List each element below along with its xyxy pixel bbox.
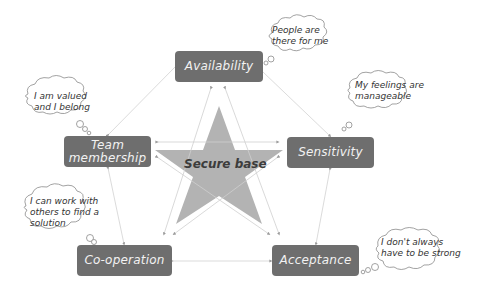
node-availability-label: Availability [185,60,254,73]
thought-sensitivity: My feelings are manageable [355,80,424,102]
node-sensitivity-label: Sensitivity [298,146,363,159]
thought-acceptance: I don't always have to be strong [381,237,461,259]
node-team-membership-label: Team membership [69,139,147,165]
node-acceptance[interactable]: Acceptance [272,245,359,276]
thought-availability: People are there for me [272,25,328,47]
node-sensitivity[interactable]: Sensitivity [287,137,374,168]
node-acceptance-label: Acceptance [279,254,351,267]
secure-base-label: Secure base [184,157,267,171]
node-cooperation[interactable]: Co-operation [77,245,172,276]
node-team-membership[interactable]: Team membership [64,136,151,167]
thought-cooperation: I can work with others to find a solutio… [30,196,99,229]
thought-team: I am valued and I belong [34,91,90,113]
node-cooperation-label: Co-operation [84,254,164,267]
node-availability[interactable]: Availability [175,51,263,82]
